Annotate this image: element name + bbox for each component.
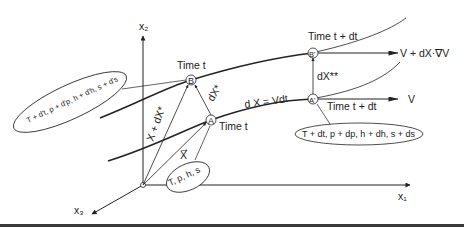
label-vector-X-text: X	[180, 149, 187, 161]
pathline-A	[108, 99, 313, 161]
label-V: V	[408, 93, 415, 105]
x1-label: x₁	[398, 190, 407, 202]
label-dXstarstar: dX**	[317, 70, 338, 82]
label-time-t-B: Time t	[177, 59, 206, 71]
bottom-rule	[0, 224, 464, 227]
label-V-plus: V + dX·∇V	[400, 47, 449, 59]
label-X-plus-dXstar: X + dX*	[144, 105, 168, 143]
vectors	[143, 53, 398, 185]
label-time-t-A: Time t	[219, 120, 248, 132]
svg-text:A': A'	[309, 96, 316, 105]
axes: x₂ x₁ x₃	[74, 20, 410, 216]
pathline-B	[100, 53, 313, 118]
state-A-prime-text: T + dt, p + dp, h + dh, s + ds	[302, 129, 415, 139]
label-time-tdt-A: Time t + dt	[327, 100, 377, 112]
x3-axis	[92, 185, 143, 214]
svg-text:B: B	[188, 76, 194, 86]
x2-label: x₂	[139, 20, 148, 32]
svg-text:B': B'	[309, 50, 316, 59]
label-dXstar: dX*	[204, 82, 223, 103]
state-ellipses: T + d't, p + d'p, h + d'h, s + d's T, p,…	[7, 60, 423, 198]
svg-text:A: A	[208, 116, 214, 126]
fluid-particle-kinematics-diagram: x₂ x₁ x₃ B A B' A' Time t Time t Time t …	[0, 0, 464, 228]
points: B A B' A'	[186, 48, 318, 126]
label-dX-eq-Vdt: d X = Vdt	[244, 92, 289, 110]
x3-label: x₃	[74, 204, 84, 216]
label-time-tdt-B: Time t + dt	[308, 30, 358, 42]
